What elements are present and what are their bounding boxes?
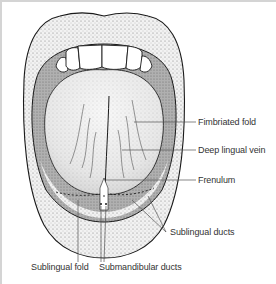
label-sublingual-fold: Sublingual fold [31,262,89,272]
label-fimbriated-fold: Fimbriated fold [198,117,256,127]
mouth-illustration [0,0,276,284]
label-deep-lingual-vein: Deep lingual vein [198,145,265,155]
label-sublingual-ducts: Sublingual ducts [170,227,234,237]
label-frenulum: Frenulum [198,175,235,185]
label-submandibular-ducts: Submandibular ducts [99,262,182,272]
upper-teeth [56,45,152,72]
